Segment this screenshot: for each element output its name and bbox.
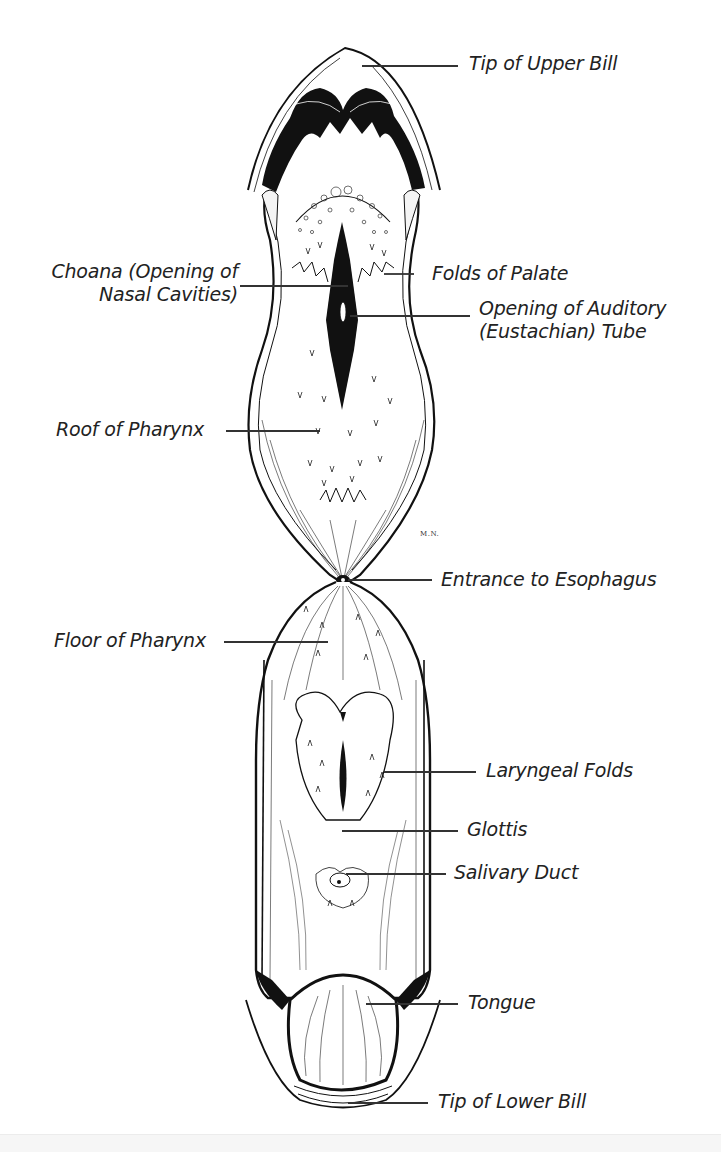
label-folds-of-palate: Folds of Palate — [432, 262, 568, 285]
palate-roof — [249, 186, 435, 585]
artist-signature: M.N. — [420, 530, 439, 538]
label-choana-line1: Choana (Opening of — [40, 260, 238, 283]
label-floor-of-pharynx: Floor of Pharynx — [54, 629, 206, 652]
label-auditory-tube: Opening of Auditory (Eustachian) Tube — [479, 297, 666, 343]
label-entrance-esophagus: Entrance to Esophagus — [441, 568, 656, 591]
label-salivary-duct: Salivary Duct — [454, 861, 578, 884]
page-bottom-edge — [0, 1134, 721, 1152]
upper-bill — [248, 48, 440, 192]
label-tip-lower-bill: Tip of Lower Bill — [438, 1090, 586, 1113]
label-glottis: Glottis — [467, 818, 527, 841]
label-auditory-tube-line2: (Eustachian) Tube — [479, 320, 666, 343]
label-choana: Choana (Opening of Nasal Cavities) — [40, 260, 238, 306]
label-tip-upper-bill: Tip of Upper Bill — [469, 52, 617, 75]
pharynx-floor — [256, 582, 430, 1010]
label-tongue: Tongue — [468, 991, 536, 1014]
label-laryngeal-folds: Laryngeal Folds — [486, 759, 633, 782]
label-roof-of-pharynx: Roof of Pharynx — [56, 418, 204, 441]
label-choana-line2: Nasal Cavities) — [40, 283, 238, 306]
tongue — [288, 975, 397, 1090]
label-auditory-tube-line1: Opening of Auditory — [479, 297, 666, 320]
